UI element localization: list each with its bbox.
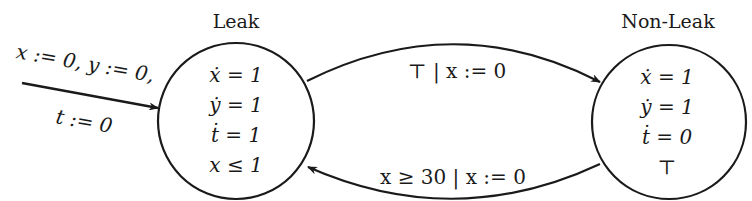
- transition-label-bottom: x ≥ 30 | x := 0: [380, 165, 526, 190]
- hybrid-automaton-diagram: Leak ẋ = 1 ẏ = 1 ṫ = 1 x ≤ 1 Non-Leak ẋ …: [0, 0, 752, 201]
- state-leak-invariant: x ≤ 1: [209, 153, 262, 177]
- state-non-leak-flow-t: ṫ = 0: [642, 124, 693, 149]
- state-non-leak-invariant: ⊤: [658, 155, 677, 179]
- initial-label-line1: x := 0, y := 0,: [14, 39, 156, 87]
- state-non-leak: Non-Leak ẋ = 1 ẏ = 1 ṫ = 0 ⊤: [592, 10, 746, 199]
- state-leak: Leak ẋ = 1 ẏ = 1 ṫ = 1 x ≤ 1: [158, 10, 314, 199]
- state-non-leak-flow-y: ẏ = 1: [639, 95, 694, 119]
- state-leak-flow-y: ẏ = 1: [208, 93, 263, 117]
- initial-label-line2: t := 0: [54, 104, 115, 138]
- state-non-leak-flow-x: ẋ = 1: [640, 65, 693, 89]
- state-leak-name: Leak: [213, 10, 260, 32]
- state-non-leak-name: Non-Leak: [621, 10, 715, 32]
- transition-leak-to-non-leak: ⊤ | x := 0: [307, 44, 600, 84]
- transition-label-top: ⊤ | x := 0: [408, 59, 506, 84]
- transition-non-leak-to-leak: x ≥ 30 | x := 0: [308, 164, 600, 199]
- initial-transition: x := 0, y := 0, t := 0: [14, 39, 158, 138]
- state-leak-flow-x: ẋ = 1: [209, 63, 262, 87]
- initial-arrow: [22, 83, 158, 108]
- state-leak-flow-t: ṫ = 1: [211, 122, 261, 147]
